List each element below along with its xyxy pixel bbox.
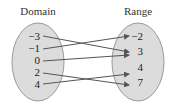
domain-label: Domain xyxy=(20,5,56,17)
range-value: −2 xyxy=(131,30,143,42)
domain-value: −3 xyxy=(28,30,40,42)
domain-value: 0 xyxy=(35,54,41,66)
range-value: 4 xyxy=(138,61,144,73)
range-value: 3 xyxy=(138,45,144,57)
mapping-diagram: Domain Range −3 −1 0 2 4 −2 3 4 7 xyxy=(0,0,175,104)
domain-value: −1 xyxy=(28,42,40,54)
range-value: 7 xyxy=(138,76,144,88)
range-label: Range xyxy=(124,5,152,17)
domain-value: 2 xyxy=(35,66,41,78)
domain-value: 4 xyxy=(35,78,41,90)
